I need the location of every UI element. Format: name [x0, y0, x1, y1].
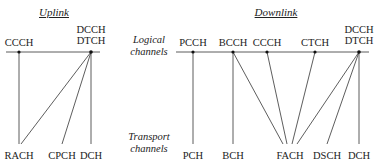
downlink-pcch-node: PCCH	[179, 37, 206, 48]
downlink-bch-node: BCH	[222, 150, 244, 161]
transport-channels-label: Transport channels	[128, 131, 169, 155]
downlink-dsch-node: DSCH	[313, 150, 341, 161]
downlink-bcch-node: BCCH	[219, 37, 248, 48]
uplink-ccch-node: CCCH	[5, 37, 34, 48]
uplink-cpch-node: CPCH	[48, 150, 75, 161]
downlink-ctch-node: CTCH	[301, 37, 329, 48]
uplink-dcch-dtch-node: DCCH DTCH	[76, 24, 105, 46]
uplink-title: Uplink	[39, 6, 69, 18]
logical-channels-label: Logical channels	[130, 34, 167, 58]
downlink-dcch-dtch-node: DCCH DTCH	[344, 24, 373, 46]
downlink-dch-node: DCH	[348, 150, 370, 161]
downlink-pch-node: PCH	[183, 150, 203, 161]
uplink-rach-node: RACH	[4, 150, 33, 161]
downlink-fach-node: FACH	[276, 150, 303, 161]
downlink-ccch-node: CCCH	[253, 37, 282, 48]
downlink-title: Downlink	[255, 6, 298, 18]
uplink-dch-node: DCH	[80, 150, 102, 161]
